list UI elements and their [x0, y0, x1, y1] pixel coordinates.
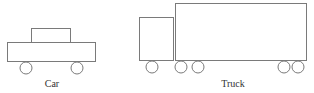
truck-wheel-icon	[175, 61, 187, 73]
car-body	[8, 43, 96, 62]
car-rear-wheel-icon	[71, 62, 83, 74]
car-label: Car	[45, 78, 60, 89]
truck-front-wheel-icon	[146, 61, 158, 73]
truck-wheel-icon	[192, 61, 204, 73]
truck-label: Truck	[221, 78, 245, 89]
vehicle-diagram: Car Truck	[0, 0, 314, 93]
car-front-wheel-icon	[20, 62, 32, 74]
car-figure: Car	[8, 29, 96, 90]
truck-cab	[140, 18, 174, 61]
truck-trailer	[176, 4, 307, 61]
truck-wheel-icon	[292, 61, 304, 73]
truck-wheel-icon	[278, 61, 290, 73]
car-cabin	[32, 29, 71, 43]
truck-figure: Truck	[140, 4, 307, 90]
